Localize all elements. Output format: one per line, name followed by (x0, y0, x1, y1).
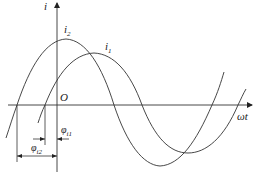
phi-i1-label: φi1 (61, 124, 72, 138)
phi-i2-label: φi2 (31, 142, 42, 156)
curve-i2-label: i2 (64, 23, 71, 38)
curve-i1-label: i1 (105, 40, 112, 55)
curve-i2 (6, 39, 224, 166)
vertical-axis-label: i (44, 0, 47, 12)
curve-i1 (38, 53, 246, 153)
origin-label: O (60, 91, 68, 103)
phase-diagram: i ωt O i2 i1 φi1 φi2 (0, 0, 259, 175)
horizontal-axis-label: ωt (237, 110, 249, 122)
